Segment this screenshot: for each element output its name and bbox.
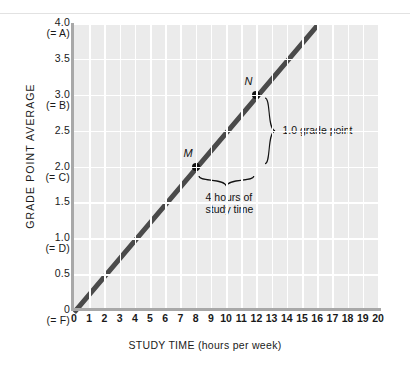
y-tick-label-value: 1.5 — [2, 195, 70, 207]
horizontal-gridline — [74, 238, 378, 240]
horizontal-gridline — [74, 23, 378, 25]
x-tick-label: 12 — [248, 312, 264, 324]
x-tick-label: 15 — [294, 312, 310, 324]
horizontal-gridline — [74, 95, 378, 97]
y-tick-label-grade: (= F) — [2, 314, 70, 326]
x-tick-label: 19 — [355, 312, 371, 324]
x-tick-label: 3 — [112, 312, 128, 324]
x-tick-label: 10 — [218, 312, 234, 324]
x-tick-label: 18 — [340, 312, 356, 324]
x-tick-label: 4 — [127, 312, 143, 324]
x-tick-label: 1 — [81, 312, 97, 324]
y-axis-line — [71, 23, 74, 311]
x-tick-label: 13 — [264, 312, 280, 324]
data-point-m-label: M — [184, 147, 193, 159]
x-tick-label: 16 — [309, 312, 325, 324]
y-tick-label-grade: (= C) — [2, 171, 70, 183]
y-tick-label-value: 3.5 — [2, 52, 70, 64]
horizontal-gridline — [74, 131, 378, 133]
x-tick-label: 5 — [142, 312, 158, 324]
x-tick-label: 14 — [279, 312, 295, 324]
horizontal-gridline — [74, 59, 378, 61]
horizontal-gridline — [74, 202, 378, 204]
x-tick-label: 0 — [66, 312, 82, 324]
run-annotation-line2: study time — [206, 203, 254, 215]
y-tick-label-grade: (= D) — [2, 242, 70, 254]
y-tick-label-grade: (= A) — [2, 27, 70, 39]
x-tick-label: 17 — [324, 312, 340, 324]
x-tick-label: 7 — [172, 312, 188, 324]
y-axis-title: GRADE POINT AVERAGE — [24, 56, 36, 256]
x-tick-label: 9 — [203, 312, 219, 324]
y-tick-label-value: 2.5 — [2, 124, 70, 136]
x-tick-label: 11 — [233, 312, 249, 324]
x-tick-label: 8 — [188, 312, 204, 324]
x-tick-label: 20 — [370, 312, 386, 324]
horizontal-gridline — [74, 274, 378, 276]
data-point-n-label: N — [244, 75, 252, 87]
horizontal-gridline — [74, 167, 378, 169]
run-annotation-line1: 4 hours of — [206, 191, 253, 203]
chart-page: M N 1.0 grade point 4 hours of study tim… — [0, 0, 410, 370]
x-tick-label: 6 — [157, 312, 173, 324]
x-tick-label: 2 — [96, 312, 112, 324]
y-tick-label-grade: (= B) — [2, 99, 70, 111]
y-tick-label-value: 0.5 — [2, 267, 70, 279]
x-axis-title: STUDY TIME (hours per week) — [0, 339, 410, 351]
x-axis-line — [71, 308, 381, 311]
vertical-gridline — [378, 23, 380, 310]
plot-area: M N 1.0 grade point 4 hours of study tim… — [74, 23, 378, 310]
